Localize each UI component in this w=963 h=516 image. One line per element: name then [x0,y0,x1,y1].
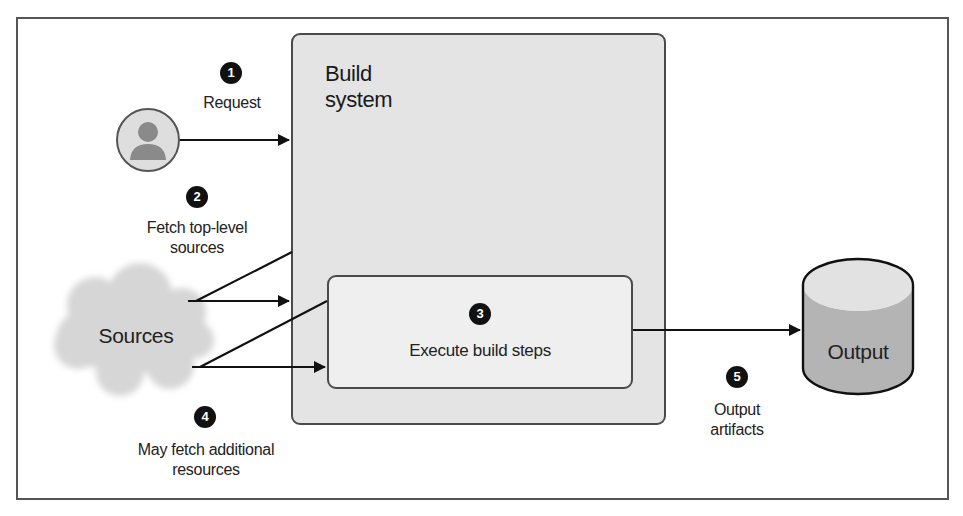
step-2-label-line-2: sources [127,238,267,258]
build-system-diagram: Build system [0,0,963,516]
step-4-label-line-1: May fetch additional [120,440,292,460]
step-2-label: Fetch top-level sources [127,218,267,258]
output-label: Output [808,339,908,365]
step-4-label-line-2: resources [120,460,292,480]
step-5-badge: 5 [726,366,748,388]
step-2-badge: 2 [186,186,208,208]
step-3-label: Execute build steps [380,341,580,361]
user-icon [117,109,179,171]
fetch-resources-diagonal-line [200,301,327,367]
step-3-badge: 3 [469,303,491,325]
step-5-label-line-2: artifacts [692,420,782,440]
step-4-label: May fetch additional resources [120,440,292,480]
database-cylinder-icon [803,259,913,394]
diagram-connectors [0,0,963,516]
step-1-badge: 1 [220,62,242,84]
step-4-badge: 4 [194,406,216,428]
fetch-sources-diagonal-line [196,252,292,301]
step-5-label: Output artifacts [692,400,782,440]
step-1-label: Request [172,93,292,113]
step-2-label-line-1: Fetch top-level [127,218,267,238]
step-5-label-line-1: Output [692,400,782,420]
sources-label: Sources [84,323,188,349]
